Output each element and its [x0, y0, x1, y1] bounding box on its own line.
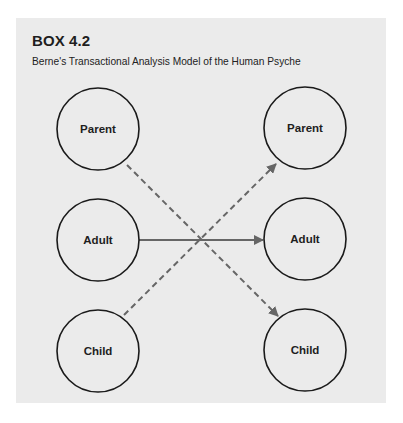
node-left-adult: Adult	[57, 199, 139, 281]
node-right-child: Child	[264, 309, 346, 391]
node-left-child: Child	[57, 310, 139, 392]
transactional-analysis-diagram: Parent Adult Child Parent Adult Child	[0, 0, 403, 423]
label-left-parent: Parent	[80, 123, 116, 135]
node-left-parent: Parent	[57, 88, 139, 170]
label-right-adult: Adult	[290, 233, 320, 245]
label-left-child: Child	[84, 345, 113, 357]
node-right-parent: Parent	[264, 87, 346, 169]
node-right-adult: Adult	[264, 198, 346, 280]
label-right-parent: Parent	[287, 122, 323, 134]
label-right-child: Child	[291, 344, 320, 356]
label-left-adult: Adult	[83, 234, 113, 246]
